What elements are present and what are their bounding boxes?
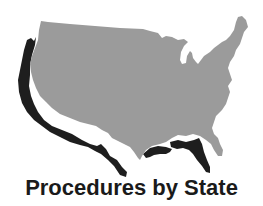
map-shadow-florida-icon: [170, 138, 210, 173]
us-map-graphic: [0, 0, 263, 180]
caption-title: Procedures by State: [0, 174, 263, 202]
map-usa-icon: [30, 16, 248, 160]
